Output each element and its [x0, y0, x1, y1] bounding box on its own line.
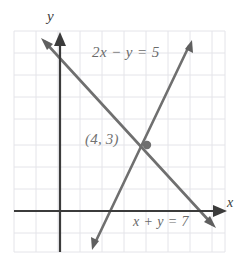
x-axis-label: x [227, 196, 233, 210]
intersection-point-marker [143, 141, 151, 149]
coordinate-plane-svg [0, 0, 245, 259]
y-axis-arrowhead [54, 32, 66, 46]
equation-label-rising-line: 2x − y = 5 [92, 45, 160, 60]
grid-lines [14, 31, 225, 252]
intersection-point-label: (4, 3) [85, 132, 119, 147]
axes [14, 32, 227, 252]
equation-label-falling-line: x + y = 7 [133, 215, 189, 229]
graph-figure: 2x − y = 5 x + y = 7 (4, 3) y x [0, 0, 245, 259]
y-axis-label: y [47, 9, 54, 24]
